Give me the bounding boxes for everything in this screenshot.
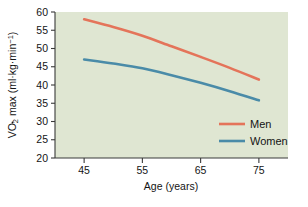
- x-tick-label: 45: [78, 164, 90, 176]
- x-tick-label: 65: [195, 164, 207, 176]
- y-tick-label: 45: [36, 60, 48, 72]
- v-dot-accent: [12, 122, 14, 124]
- y-tick-label: 35: [36, 97, 48, 109]
- x-tick-label: 55: [137, 164, 149, 176]
- y-tick-label: 40: [36, 79, 48, 91]
- y-tick-label: 20: [36, 152, 48, 164]
- y-tick-label: 60: [36, 6, 48, 18]
- y-tick-label: 30: [36, 115, 48, 127]
- y-axis-title-prefix: V: [6, 131, 18, 138]
- y-tick-label: 55: [36, 24, 48, 36]
- y-axis-title-mid: max (ml·kg·min: [6, 44, 18, 119]
- vo2max-age-line-chart: 202530354045505560 45556575 Age (years) …: [0, 0, 308, 207]
- chart-canvas: 202530354045505560 45556575 Age (years) …: [0, 0, 308, 207]
- x-axis-ticks: [84, 158, 259, 163]
- y-axis-tick-labels: 202530354045505560: [36, 6, 48, 164]
- y-tick-label: 50: [36, 42, 48, 54]
- legend-label-women: Women: [250, 135, 288, 147]
- y-axis-title-suffix: ): [6, 32, 18, 36]
- legend-label-men: Men: [250, 118, 271, 130]
- x-axis-tick-labels: 45556575: [78, 164, 265, 176]
- x-axis-title: Age (years): [144, 180, 198, 192]
- y-axis-title-superscript: −1: [6, 35, 15, 44]
- y-axis-ticks: [51, 12, 55, 158]
- y-axis-title: VO2 max (ml·kg·min−1): [6, 32, 21, 139]
- x-tick-label: 75: [253, 164, 265, 176]
- y-tick-label: 25: [36, 133, 48, 145]
- y-axis-title-o: O: [6, 123, 18, 131]
